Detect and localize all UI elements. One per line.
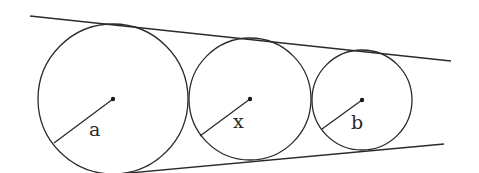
center-b-point	[360, 98, 364, 102]
center-a-point	[111, 97, 115, 101]
circle-a-group: a	[38, 24, 188, 173]
label-x: x	[233, 110, 244, 132]
radius-a-line	[54, 99, 113, 143]
label-a: a	[89, 118, 100, 140]
bottom-tangent-line	[130, 144, 444, 173]
center-x-point	[248, 97, 252, 101]
circle-x-group: x	[189, 38, 311, 160]
circle-b-group: b	[312, 50, 412, 150]
tangent-circles-diagram: a x b	[0, 0, 479, 173]
label-b: b	[351, 111, 363, 133]
